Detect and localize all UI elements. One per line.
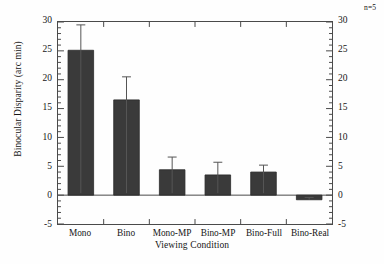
plot-area [57,21,333,225]
y-tick-right-5: 5 [338,161,364,171]
y-tick-left--5: -5 [26,219,52,229]
bar-group [159,157,185,195]
x-tick-bino: Bino [117,228,135,238]
bar-group [296,195,322,200]
y-tick-right-10: 10 [338,132,364,142]
bar-group [205,162,231,195]
y-tick-left-10: 10 [26,132,52,142]
bar-group [68,25,94,195]
y-tick-right-15: 15 [338,102,364,112]
bar-group [114,77,140,195]
y-tick-left-30: 30 [26,15,52,25]
y-tick-right-20: 20 [338,73,364,83]
y-axis-left-title: Binocular Disparity (arc min) [13,19,23,179]
x-tick-mono: Mono [69,228,91,238]
y-tick-right-0: 0 [338,190,364,200]
x-tick-bino-real: Bino-Real [291,228,329,238]
x-axis-title: Viewing Condition [0,240,384,250]
bar-group [251,165,277,195]
y-tick-left-15: 15 [26,102,52,112]
y-tick-left-0: 0 [26,190,52,200]
y-tick-right--5: -5 [338,219,364,229]
sample-size-annotation: n=5 [364,3,376,12]
y-tick-left-5: 5 [26,161,52,171]
bars-and-errorbars-layer [58,22,332,224]
x-tick-bino-full: Bino-Full [246,228,282,238]
x-tick-bino-mp: Bino-MP [201,228,236,238]
y-tick-right-25: 25 [338,44,364,54]
x-tick-mono-mp: Mono-MP [153,228,192,238]
y-tick-right-30: 30 [338,15,364,25]
y-tick-left-25: 25 [26,44,52,54]
y-tick-left-20: 20 [26,73,52,83]
figure-canvas: n=5 Binocular Disparity (arc min) Equiva… [0,0,384,264]
